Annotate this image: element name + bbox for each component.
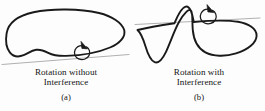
panel-b-caption: Rotation with Interference xyxy=(133,67,265,88)
panel-a-caption-line-2: Interference xyxy=(0,77,132,87)
rotation-arrow-head xyxy=(207,5,214,13)
panel-b-caption-line-2: Interference xyxy=(133,77,265,87)
cam-profile-outline xyxy=(6,9,124,56)
panel-a-caption-line-1: Rotation without xyxy=(0,67,132,77)
panel-b-caption-line-1: Rotation with xyxy=(133,67,265,77)
panel-b-letter: (b) xyxy=(133,92,265,102)
figure-panel-b: Rotation with Interference (b) xyxy=(133,0,265,111)
self-intersecting-cam-profile-drawing xyxy=(133,0,265,68)
smooth-closed-cam-profile-drawing xyxy=(0,0,132,68)
rotation-arrow xyxy=(74,41,89,59)
figure-panel-a: Rotation without Interference (a) xyxy=(0,0,132,111)
figure-sheet: Rotation without Interference (a) Rotati… xyxy=(0,0,265,111)
panel-b-artwork xyxy=(133,0,265,68)
rotation-arrow-head xyxy=(81,41,88,49)
panel-a-artwork xyxy=(0,0,132,68)
panel-a-caption: Rotation without Interference xyxy=(0,67,132,88)
cam-profile-outline xyxy=(138,7,257,63)
panel-a-letter: (a) xyxy=(0,92,132,102)
